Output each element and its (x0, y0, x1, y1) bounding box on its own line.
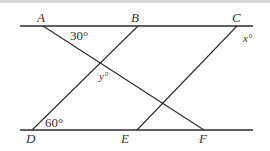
label-point-a: A (36, 10, 45, 25)
geometry-diagram: A B C D E F 30° 60° x° y° (0, 0, 270, 151)
angle-label-30: 30° (70, 28, 88, 43)
label-point-e: E (120, 131, 129, 146)
segment-ce (137, 26, 237, 130)
label-point-f: F (198, 131, 208, 146)
angle-label-x: x° (242, 32, 253, 44)
label-point-c: C (232, 10, 241, 25)
segment-af (43, 26, 204, 130)
label-point-b: B (131, 10, 139, 25)
label-point-d: D (25, 131, 36, 146)
angle-label-60: 60° (45, 115, 63, 130)
angle-label-y: y° (98, 70, 109, 82)
